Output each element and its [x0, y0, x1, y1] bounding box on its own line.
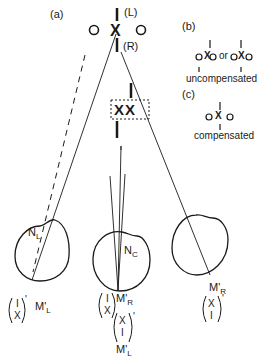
center-image-l-label: M'L: [116, 343, 132, 358]
c-caption: compensated: [194, 130, 254, 141]
left-circle-icon: [90, 26, 99, 35]
left-eye-sight-line: [32, 34, 116, 280]
c-cross: X: [215, 110, 222, 121]
b2-left-circle: [231, 54, 237, 60]
c-right-circle: [227, 114, 233, 120]
right-eye-open-paren: [203, 296, 206, 322]
c-left-circle: [206, 114, 212, 120]
center-prime: ': [133, 311, 135, 322]
right-eye-bracket-content: XI: [208, 298, 215, 322]
center-eye-outline: [93, 232, 150, 291]
panel-b-label: (b): [182, 20, 195, 32]
center-node-label: NC: [124, 244, 138, 259]
panel-a-label: (a): [50, 8, 63, 20]
center-b1-open-paren: [99, 293, 102, 318]
center-b2-open-paren: [114, 313, 117, 342]
right-eye-close-paren: [218, 296, 221, 322]
right-circle-icon: [137, 26, 146, 35]
b2-cross: X: [238, 50, 245, 61]
right-eye-prime: ': [222, 293, 224, 304]
b-caption: uncompensated: [186, 73, 257, 84]
left-marker-label: (L): [124, 6, 137, 18]
left-eye-prime: ': [25, 294, 27, 305]
right-eye-sight-line: [121, 52, 210, 275]
left-eye-dashed-line: [33, 55, 85, 272]
b2-right-circle: [246, 54, 252, 60]
left-eye-open-paren: [9, 298, 12, 323]
left-node-label: NL: [28, 226, 40, 241]
center-b2-close-paren: [129, 313, 132, 342]
sight-lines: [32, 34, 210, 290]
center-b1-close-paren: [112, 293, 115, 318]
panel-c-label: (c): [182, 88, 195, 100]
left-image-label: M'L: [35, 300, 51, 315]
doubled-image-text: XX: [114, 101, 136, 118]
center-bracket1-content: IX: [104, 293, 111, 317]
right-marker-label: (R): [123, 40, 138, 52]
b1-left-circle: [196, 54, 202, 60]
b-or-text: or: [219, 50, 228, 61]
center-image-r-label: M'R: [116, 292, 133, 307]
center-bracket2-content: XI: [119, 315, 126, 339]
right-eye-outline: [172, 215, 228, 275]
b1-cross: X: [204, 50, 211, 61]
fixation-cross: X: [110, 22, 121, 40]
left-eye-bracket-content: IX: [14, 298, 21, 322]
